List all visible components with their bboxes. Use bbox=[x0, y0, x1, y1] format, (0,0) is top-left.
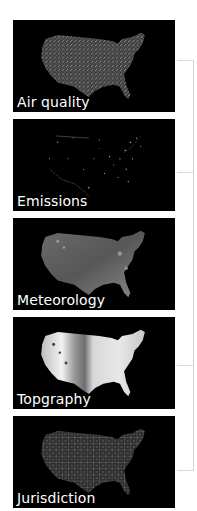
panel-label-air-quality: Air quality bbox=[17, 94, 90, 110]
bracket-tick-air-quality bbox=[177, 60, 194, 61]
panel-meteorology: Meteorology bbox=[13, 218, 175, 310]
panel-label-topography: Topgraphy bbox=[17, 391, 91, 407]
us-map-jurisdiction-icon bbox=[37, 424, 149, 500]
panel-air-quality: Air quality bbox=[13, 20, 175, 112]
panel-label-meteorology: Meteorology bbox=[17, 292, 105, 308]
bracket-tick-emissions bbox=[177, 172, 194, 173]
bracket-line bbox=[193, 60, 194, 471]
bracket-tick-topography bbox=[177, 365, 194, 366]
panel-jurisdiction: Jurisdiction bbox=[13, 416, 175, 508]
panel-topography: Topgraphy bbox=[13, 317, 175, 409]
panel-label-emissions: Emissions bbox=[17, 193, 87, 209]
us-map-topography-icon bbox=[37, 325, 149, 401]
us-map-air-quality-icon bbox=[37, 28, 149, 104]
panel-emissions: Emissions bbox=[13, 119, 175, 211]
bracket-tick-jurisdiction bbox=[177, 470, 194, 471]
us-map-emissions-icon bbox=[37, 127, 149, 203]
us-map-meteorology-icon bbox=[37, 226, 149, 302]
panel-label-jurisdiction: Jurisdiction bbox=[17, 490, 95, 506]
